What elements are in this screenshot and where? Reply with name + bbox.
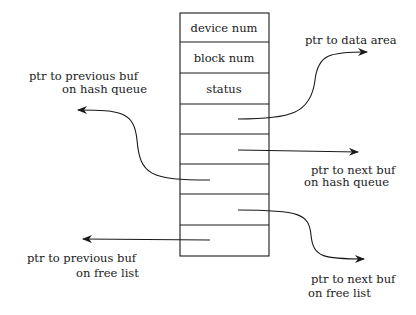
label-prev-hash-line2: on hash queue: [62, 82, 147, 96]
field-block-num: block num: [194, 51, 255, 65]
label-prev-free-line2: on free list: [76, 266, 139, 280]
label-ptr-data-area: ptr to data area: [305, 33, 397, 47]
label-prev-free-line1: ptr to previous buf: [27, 251, 137, 265]
arrow-next-free: [238, 210, 364, 259]
arrow-prev-free: [83, 239, 210, 240]
arrow-data-area: [238, 52, 367, 119]
arrow-prev-hash: [78, 110, 210, 180]
buffer-header-box: [180, 13, 269, 256]
field-status: status: [206, 82, 241, 96]
label-next-free-line1: ptr to next buf: [311, 272, 396, 286]
label-next-free-line2: on free list: [308, 286, 371, 300]
arrow-next-hash: [238, 150, 358, 152]
label-next-hash-line2: on hash queue: [304, 175, 389, 189]
field-device-num: device num: [191, 21, 258, 35]
label-prev-hash-line1: ptr to previous buf: [29, 69, 139, 83]
buffer-header-diagram: device num block num status ptr to data …: [0, 0, 416, 315]
